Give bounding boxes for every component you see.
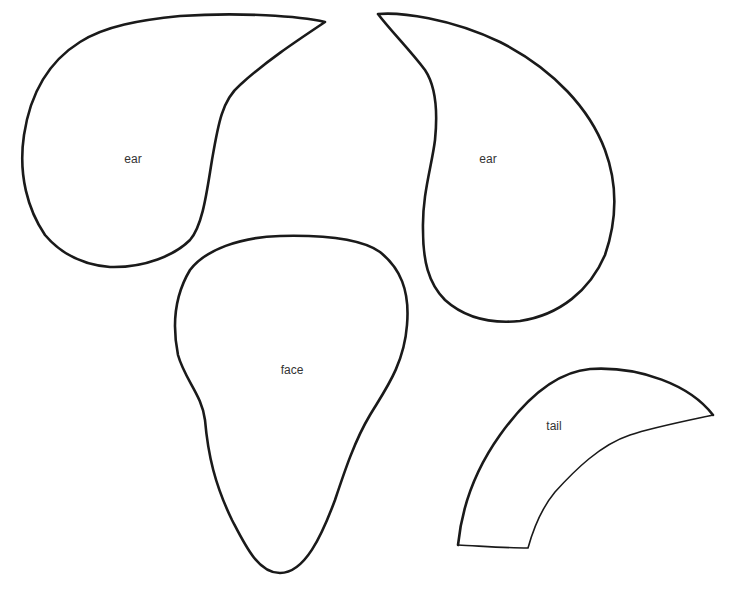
left-ear-piece: ear [22, 14, 325, 267]
left-ear-outline [22, 14, 325, 267]
right-ear-piece: ear [378, 14, 614, 322]
left-ear-label: ear [124, 152, 141, 166]
tail-piece: tail [458, 369, 713, 548]
tail-label: tail [546, 419, 561, 433]
tail-outer-edge [458, 369, 713, 545]
face-label: face [281, 363, 304, 377]
face-outline [175, 236, 407, 573]
face-piece: face [175, 236, 407, 573]
right-ear-outline [378, 14, 614, 322]
tail-inner-edge [458, 415, 713, 548]
pattern-template-canvas: ear ear face tail [0, 0, 730, 594]
right-ear-label: ear [479, 152, 496, 166]
